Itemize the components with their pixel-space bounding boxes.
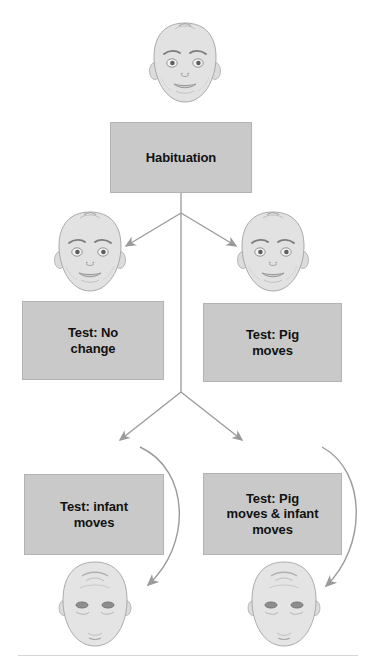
box-test-pig-moves[interactable]: Test: Pig moves <box>203 303 342 382</box>
box-test-no-change-label: Test: No change <box>64 325 122 356</box>
arrow-to-test-no-change <box>126 213 181 246</box>
box-test-infant-moves[interactable]: Test: infant moves <box>24 474 164 555</box>
infant-face-test-left <box>55 212 126 291</box>
arrow-to-test-pig-and-infant-moves <box>181 392 242 440</box>
infant-face-bottom-left <box>59 562 131 646</box>
infant-face-bottom-right <box>248 562 320 646</box>
box-test-infant-moves-label: Test: infant moves <box>56 499 132 530</box>
box-test-pig-moves-label: Test: Pig moves <box>242 327 303 358</box>
box-habituation[interactable]: Habituation <box>110 122 252 193</box>
infant-face-habituation <box>150 23 221 102</box>
infant-face-test-right <box>238 212 309 291</box>
habituation-diagram: Habituation Test: No change Test: Pig mo… <box>0 0 373 663</box>
box-test-pig-and-infant-moves[interactable]: Test: Pig moves & infant moves <box>203 473 342 555</box>
arrow-to-test-pig-moves <box>181 213 236 246</box>
box-habituation-label: Habituation <box>142 150 220 165</box>
bottom-divider <box>18 655 358 656</box>
box-test-pig-and-infant-moves-label: Test: Pig moves & infant moves <box>223 491 323 537</box>
box-test-no-change[interactable]: Test: No change <box>22 301 164 380</box>
arrow-to-test-infant-moves <box>120 392 181 440</box>
